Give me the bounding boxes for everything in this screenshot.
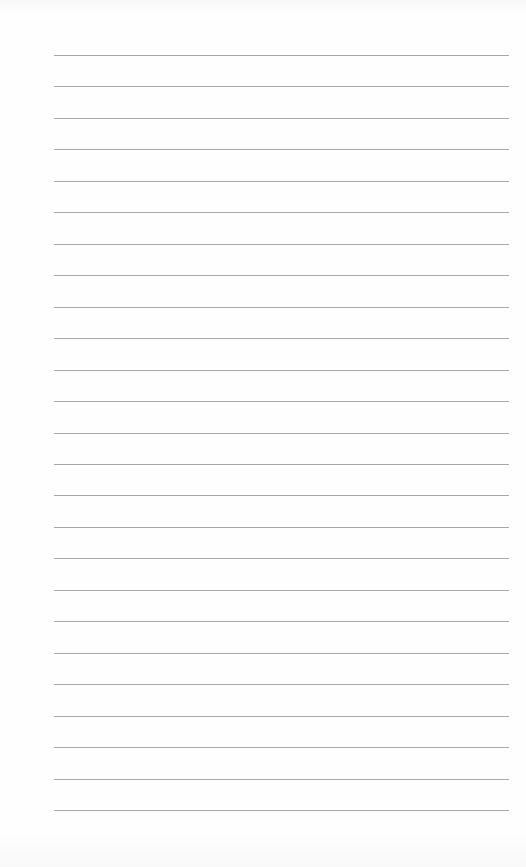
ruled-line xyxy=(54,401,509,402)
ruled-line xyxy=(54,307,509,308)
ruled-line xyxy=(54,86,509,87)
ruled-line xyxy=(54,181,509,182)
ruled-line xyxy=(54,275,509,276)
top-bleed-through xyxy=(0,0,526,14)
lined-paper-page xyxy=(0,0,526,867)
ruled-line xyxy=(54,212,509,213)
ruled-line xyxy=(54,244,509,245)
ruled-line xyxy=(54,716,509,717)
ruled-line xyxy=(54,621,509,622)
ruled-line xyxy=(54,779,509,780)
ruled-line xyxy=(54,118,509,119)
ruled-line xyxy=(54,370,509,371)
ruled-line xyxy=(54,810,509,811)
ruled-line xyxy=(54,590,509,591)
ruled-line xyxy=(54,149,509,150)
bottom-bleed-through xyxy=(0,827,526,867)
ruled-line xyxy=(54,558,509,559)
ruled-line xyxy=(54,433,509,434)
ruled-line xyxy=(54,338,509,339)
ruled-line xyxy=(54,684,509,685)
ruled-line xyxy=(54,653,509,654)
ruled-line xyxy=(54,495,509,496)
ruled-line xyxy=(54,747,509,748)
ruled-line xyxy=(54,464,509,465)
ruled-line xyxy=(54,55,509,56)
ruled-line xyxy=(54,527,509,528)
